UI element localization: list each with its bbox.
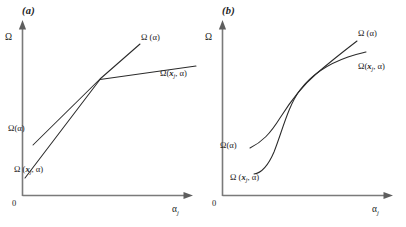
panel-a-label-omega-xj-lower-prefix: Ω ( (14, 164, 26, 174)
panel-a-label-omega-xj-lower-suffix: ) (40, 164, 43, 174)
panel-b-label-omega-xj-alpha-lower: Ω (xj, α) (230, 172, 259, 183)
panel-b-origin-label: 0 (212, 198, 216, 208)
panel-b-label-omega-xj-alpha-right: Ω(xj, α) (358, 61, 385, 72)
panel-b-label-omega-alpha-upper: Ω (α) (358, 28, 377, 38)
panel-a-origin-label: 0 (12, 198, 16, 208)
panel-b-label-omega-alpha-upper-suffix: ) (374, 28, 377, 38)
panel-a-curve-omega-xj-alpha (25, 66, 196, 178)
panel-a-y-axis-arrow (19, 20, 26, 30)
svg-text:αj: αj (372, 204, 379, 216)
panel-a-label-omega-alpha-upper: Ω (α) (141, 32, 160, 42)
panel-b-x-axis-label: αj (372, 204, 379, 216)
panel-a-label-omega-xj-alpha-right: Ω(xj, α) (160, 68, 187, 79)
panel-a-x-axis-label: αj (172, 204, 179, 216)
panel-b-x-axis-arrow (384, 192, 394, 199)
panel-b-label-omega-alpha-upper-prefix: Ω ( (358, 28, 370, 38)
panel-b-label-omega-alpha-lower-suffix: ) (234, 140, 237, 150)
two-panel-figure: (a) Ω 0 αj Ω (α) (0, 0, 406, 227)
panel-b-curve-omega-xj-alpha (254, 52, 366, 174)
panel-b-x-axis-label-sub: j (376, 209, 379, 216)
figure-container: (a) Ω 0 αj Ω (α) (0, 0, 406, 227)
panel-a-label-omega-alpha-upper-prefix: Ω ( (141, 32, 153, 42)
panel-b-label-omega-xj-right-suffix: ) (382, 61, 385, 71)
panel-b-label-omega-alpha-lower-prefix: Ω( (220, 140, 229, 150)
panel-b-label-omega-xj-lower-suffix: ) (256, 172, 259, 182)
panel-b: (b) Ω 0 αj Ω (α) (205, 5, 393, 216)
panel-a-label-omega-xj-right-suffix: ) (184, 68, 187, 78)
panel-a-label-omega-alpha-lower: Ω(α) (8, 123, 25, 133)
panel-b-label-omega-xj-lower-prefix: Ω ( (230, 172, 242, 182)
panel-a-label-omega-alpha-lower-suffix: ) (22, 123, 25, 133)
panel-b-y-axis-label: Ω (205, 32, 212, 42)
panel-a-x-axis-label-sub: j (176, 209, 179, 216)
panel-a-label-omega-xj-alpha-lower: Ω (xj, α) (14, 164, 43, 175)
panel-a-label-omega-alpha-lower-prefix: Ω( (8, 123, 17, 133)
panel-b-label-omega-alpha-lower: Ω(α) (220, 140, 237, 150)
panel-a: (a) Ω 0 αj Ω (α) (5, 5, 196, 216)
panel-b-curve-omega-alpha (250, 41, 357, 148)
panel-a-label-omega-xj-right-prefix: Ω( (160, 68, 169, 78)
panel-a-curve-omega-alpha (33, 44, 140, 145)
panel-a-y-axis-label: Ω (5, 32, 12, 42)
panel-b-y-axis-arrow (219, 20, 226, 30)
panel-b-tag: (b) (222, 5, 235, 17)
panel-a-label-omega-alpha-upper-suffix: ) (157, 32, 160, 42)
svg-text:αj: αj (172, 204, 179, 216)
panel-a-x-axis-arrow (184, 192, 194, 199)
panel-b-label-omega-xj-right-prefix: Ω( (358, 61, 367, 71)
panel-a-tag: (a) (22, 5, 35, 17)
